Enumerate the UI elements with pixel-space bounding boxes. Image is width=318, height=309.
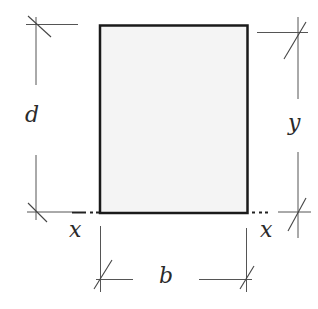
width-label: b [159,263,173,288]
centroid-distance-label: y [287,110,301,135]
width-dimension [94,226,254,292]
axis-label-left: x [69,217,82,242]
axis-label-right: x [260,217,273,242]
centroid-distance-dimension [257,17,311,238]
depth-label: d [25,102,39,127]
rectangular-section [100,26,248,214]
cross-section-diagram: d y b x x [0,0,318,309]
